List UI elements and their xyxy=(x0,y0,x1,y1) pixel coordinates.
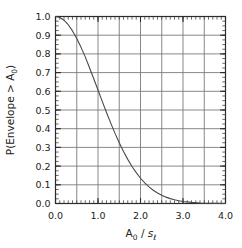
y-tick-label: 0.0 xyxy=(35,198,50,209)
y-tick-label: 0.2 xyxy=(35,161,50,172)
y-tick-label: 1.0 xyxy=(35,11,50,22)
y-tick-labels: 0.00.10.20.30.40.50.60.70.80.91.0 xyxy=(35,11,50,209)
x-tick-label: 1.0 xyxy=(90,210,105,221)
y-tick-label: 0.1 xyxy=(35,179,50,190)
y-tick-label: 0.8 xyxy=(35,48,50,59)
x-tick-label: 0.0 xyxy=(48,210,63,221)
y-tick-label: 0.7 xyxy=(35,67,50,78)
y-tick-label: 0.9 xyxy=(35,30,50,41)
y-tick-label: 0.3 xyxy=(35,142,50,153)
chart-figure: 0.01.02.03.04.0 0.00.10.20.30.40.50.60.7… xyxy=(0,0,242,248)
x-tick-label: 3.0 xyxy=(175,210,190,221)
y-tick-label: 0.4 xyxy=(35,123,50,134)
y-tick-label: 0.6 xyxy=(35,86,50,97)
x-tick-label: 2.0 xyxy=(133,210,148,221)
y-tick-label: 0.5 xyxy=(35,105,50,116)
x-tick-label: 4.0 xyxy=(218,210,233,221)
rayleigh-envelope-exceedance-chart: 0.01.02.03.04.0 0.00.10.20.30.40.50.60.7… xyxy=(0,0,242,248)
